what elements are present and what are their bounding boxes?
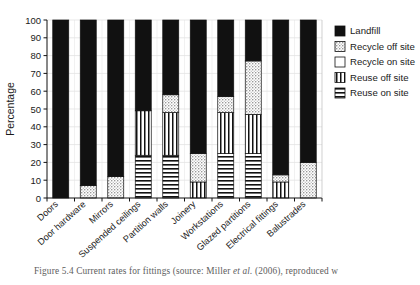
y-tick-label: 60 <box>30 86 41 97</box>
legend-swatch <box>335 88 345 98</box>
bar-segment <box>163 20 179 95</box>
bar-segment <box>163 95 179 113</box>
bar-partition-walls <box>163 20 179 198</box>
bar-segment <box>53 20 69 198</box>
bar-segment <box>80 20 96 186</box>
y-tick-label: 30 <box>30 139 41 150</box>
bar-segment <box>218 97 234 113</box>
bar-segment <box>245 114 261 153</box>
legend-label: Landfill <box>350 25 380 36</box>
y-tick-label: 70 <box>30 68 41 79</box>
legend-swatch <box>335 73 345 83</box>
bar-segment <box>190 20 206 154</box>
bar-segment <box>245 61 261 114</box>
bar-segment <box>135 20 151 111</box>
y-tick-label: 0 <box>36 193 41 204</box>
x-tick-labels: DoorsDoor hardwareMirrorsSuspended ceili… <box>35 199 308 260</box>
bar-workstations <box>218 20 234 198</box>
bar-segment <box>300 20 316 162</box>
legend-label: Reuse on site <box>350 87 409 98</box>
bar-segment <box>245 154 261 199</box>
y-tick-label: 10 <box>30 175 41 186</box>
bar-segment <box>273 175 289 182</box>
bar-segment <box>108 177 124 198</box>
x-tick-label: Door hardware <box>36 199 88 247</box>
legend-label: Reuse off site <box>350 72 409 83</box>
bar-segment <box>108 20 124 177</box>
figure-caption: Figure 5.4 Current rates for fittings (s… <box>34 266 420 276</box>
bar-electrical-fittings <box>273 20 289 198</box>
bar-segment <box>190 154 206 182</box>
y-tick-label: 100 <box>25 15 41 26</box>
caption-text: Current rates for fittings (source: Mill… <box>76 266 233 276</box>
y-tick-label: 40 <box>30 121 41 132</box>
legend-swatch <box>335 42 345 52</box>
figure-chart: 0102030405060708090100PercentageDoorsDoo… <box>0 0 420 285</box>
legend-swatch <box>335 26 345 36</box>
bar-balustrades <box>300 20 316 198</box>
bar-segment <box>300 162 316 198</box>
bar-glazed-partitions <box>245 20 261 198</box>
legend-label: Recycle on site <box>350 56 415 67</box>
bar-segment <box>273 20 289 175</box>
legend: LandfillRecycle off siteRecycle on siteR… <box>335 25 415 98</box>
legend-label: Recycle off site <box>350 41 415 52</box>
caption-italic: et al. <box>233 266 253 276</box>
bar-segment <box>163 155 179 198</box>
caption-prefix: Figure 5.4 <box>34 266 74 276</box>
bar-joinery <box>190 20 206 198</box>
bar-segment <box>218 113 234 154</box>
y-tick-label: 20 <box>30 157 41 168</box>
bar-segment <box>80 186 96 198</box>
y-tick-label: 90 <box>30 32 41 43</box>
bar-doors <box>53 20 69 198</box>
bar-segment <box>245 20 261 61</box>
bar-segment <box>273 182 289 198</box>
y-axis-title: Percentage <box>4 82 16 136</box>
bar-segment <box>218 154 234 199</box>
bar-suspended-ceilings <box>135 20 151 198</box>
y-tick-label: 50 <box>30 104 41 115</box>
bar-segment <box>218 20 234 97</box>
bar-segment <box>135 155 151 198</box>
legend-swatch <box>335 57 345 67</box>
bar-segment <box>163 113 179 156</box>
caption-suffix: (2006), reproduced w <box>252 266 338 276</box>
bar-mirrors <box>108 20 124 198</box>
y-tick-label: 80 <box>30 50 41 61</box>
bar-door-hardware <box>80 20 96 198</box>
bar-segment <box>190 182 206 198</box>
bar-segment <box>135 111 151 156</box>
